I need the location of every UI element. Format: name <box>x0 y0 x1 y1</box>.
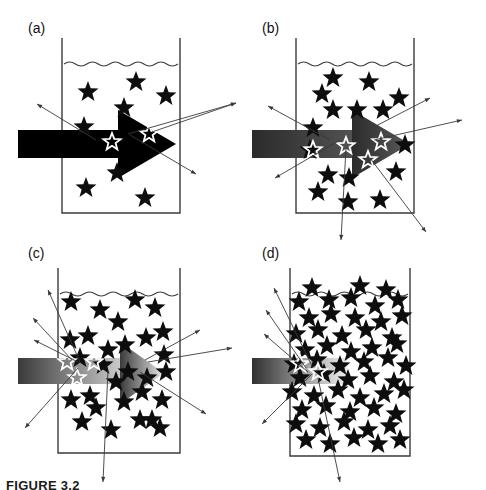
particle-star <box>156 361 177 381</box>
panel-d: (d) <box>252 245 416 482</box>
scattered-ray-arrowhead <box>275 174 280 178</box>
particle-star <box>136 327 157 347</box>
scattered-ray-arrowhead <box>195 330 200 334</box>
particle-star <box>354 351 375 371</box>
scattered-ray <box>152 103 236 132</box>
particle-star <box>308 181 329 201</box>
particle-star <box>345 307 366 327</box>
particle-star <box>370 189 391 209</box>
panel-label-a: (a) <box>28 20 45 36</box>
particle-star <box>323 99 344 119</box>
panel-label-c: (c) <box>28 245 44 261</box>
particle-star <box>318 164 339 184</box>
scattered-ray-arrowhead <box>231 103 236 107</box>
particle-star <box>338 191 359 211</box>
scattered-ray-arrowhead <box>339 235 343 240</box>
particle-star <box>108 311 129 331</box>
panel-c: (c) <box>18 245 232 482</box>
particle-star <box>360 365 381 385</box>
particle-star <box>145 297 166 317</box>
scattered-ray-arrowhead <box>425 98 430 102</box>
beam-arrowhead-a <box>118 110 176 178</box>
scattered-ray-arrowhead <box>201 410 206 414</box>
scattered-ray <box>374 120 462 140</box>
liquid-surface-c <box>60 292 178 296</box>
particle-star <box>135 187 156 207</box>
panel-label-d: (d) <box>262 245 279 261</box>
panel-a: (a) <box>18 20 236 213</box>
figure-container: (a)(b)(c)(d) FIGURE 3.2 <box>0 0 486 490</box>
scattered-ray-arrowhead <box>274 288 278 293</box>
particle-star <box>317 335 338 355</box>
scattered-ray-arrowhead <box>337 477 341 482</box>
scattered-ray <box>103 370 108 482</box>
particle-star <box>365 295 386 315</box>
particle-star <box>344 427 365 447</box>
scattering-diagram: (a)(b)(c)(d) <box>0 0 486 490</box>
particle-star <box>61 389 82 409</box>
light-beam-a <box>18 110 176 178</box>
liquid-surface-b <box>298 62 412 66</box>
particle-star <box>72 411 93 431</box>
particle-star <box>289 291 310 311</box>
particle-star <box>359 71 380 91</box>
scattered-ray-arrowhead <box>48 290 52 296</box>
scattered-ray-arrowhead <box>268 106 273 110</box>
particle-star <box>350 387 371 407</box>
particle-star <box>312 83 333 103</box>
panel-label-b: (b) <box>262 20 279 36</box>
scattered-ray <box>128 103 236 134</box>
scattered-ray-arrowhead <box>34 340 39 344</box>
particle-star <box>153 321 174 341</box>
scattered-ray-arrowhead <box>101 477 105 482</box>
particle-star <box>378 347 399 367</box>
figure-caption: FIGURE 3.2 <box>6 479 80 490</box>
particle-star <box>316 395 337 415</box>
liquid-surface-a <box>64 62 178 66</box>
panel-b: (b) <box>252 20 462 240</box>
panels-layer: (a)(b)(c)(d) <box>18 20 462 482</box>
scattered-ray-arrowhead <box>37 104 42 108</box>
scattered-ray-arrowhead <box>191 170 196 174</box>
particle-star <box>78 325 99 345</box>
particle-star <box>156 85 177 105</box>
particle-star <box>341 341 362 361</box>
particle-star <box>323 67 344 87</box>
particle-star <box>152 389 173 409</box>
particle-star <box>332 325 353 345</box>
particle-star <box>126 71 147 91</box>
particle-star <box>389 87 410 107</box>
scattered-ray-arrowhead <box>266 310 271 315</box>
particle-star <box>286 413 307 433</box>
particle-star <box>61 291 82 311</box>
particle-star <box>78 81 99 101</box>
scattered-ray <box>140 372 206 414</box>
particle-star <box>125 289 146 309</box>
particle-star <box>386 161 407 181</box>
scattered-ray <box>341 148 346 240</box>
particle-star <box>302 277 323 297</box>
particle-star <box>90 299 111 319</box>
scattered-ray-arrowhead <box>227 347 232 351</box>
particle-star <box>101 419 122 439</box>
scattered-ray-arrowhead <box>421 227 426 232</box>
particle-star <box>396 355 417 375</box>
particle-star <box>76 177 97 197</box>
particle-star <box>296 429 317 449</box>
particle-star <box>373 99 394 119</box>
